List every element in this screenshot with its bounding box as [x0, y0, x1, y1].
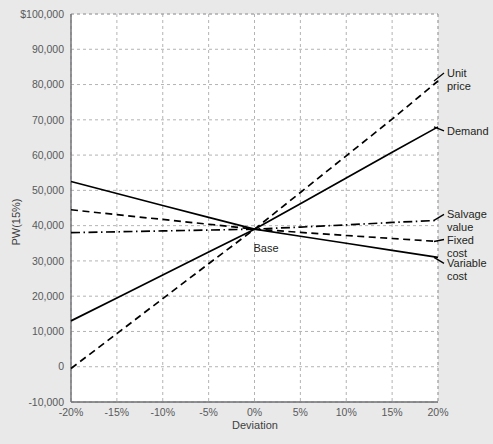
y-tick-label: $100,000	[20, 8, 64, 20]
series-label-variable-cost-line2: cost	[447, 270, 467, 282]
series-label-demand: Demand	[447, 125, 489, 137]
x-tick-label: -10%	[150, 406, 175, 418]
x-tick-label: -20%	[59, 406, 84, 418]
y-tick-label: 80,000	[32, 78, 64, 90]
y-tick-label: 30,000	[32, 255, 64, 267]
x-tick-label: 15%	[382, 406, 403, 418]
sensitivity-chart: $100,00090,00080,00070,00060,00050,00040…	[0, 0, 493, 444]
x-tick-label: 5%	[293, 406, 308, 418]
x-axis-title: Deviation	[232, 419, 278, 431]
y-tick-label: 50,000	[32, 184, 64, 196]
series-label-unit-price: Unit	[447, 67, 467, 79]
y-tick-label: 20,000	[32, 290, 64, 302]
x-tick-label: -15%	[105, 406, 130, 418]
y-tick-label: 70,000	[32, 114, 64, 126]
y-tick-label: 90,000	[32, 43, 64, 55]
series-label-variable-cost: Variable	[447, 257, 487, 269]
x-axis-tick-labels: -20%-15%-10%-5%0%5%10%15%20%	[59, 406, 449, 418]
x-tick-label: 0%	[247, 406, 262, 418]
x-tick-label: -5%	[199, 406, 218, 418]
y-tick-label: 60,000	[32, 149, 64, 161]
y-tick-label: 40,000	[32, 219, 64, 231]
series-label-fixed-cost: Fixed	[447, 234, 474, 246]
y-tick-label: 10,000	[32, 325, 64, 337]
series-label-salvage-value: Salvage	[447, 208, 487, 220]
y-tick-label: 0	[58, 360, 64, 372]
x-tick-label: 10%	[336, 406, 357, 418]
y-axis-title: PW(15%)	[10, 198, 22, 245]
series-label-salvage-value-line2: value	[447, 221, 473, 233]
chart-canvas: $100,00090,00080,00070,00060,00050,00040…	[0, 0, 493, 444]
x-tick-label: 20%	[427, 406, 448, 418]
base-point-label: Base	[253, 242, 278, 254]
series-label-unit-price-line2: price	[447, 80, 471, 92]
